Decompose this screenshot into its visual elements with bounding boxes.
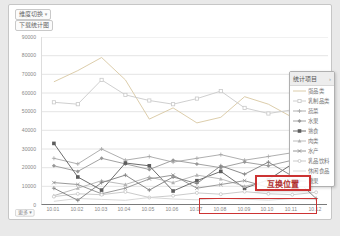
legend-marker-icon: [293, 147, 306, 155]
x-axis: 10.0110.0210.0310.0410.0510.0610.0710.08…: [41, 206, 327, 216]
x-tick-label: 10.02: [67, 207, 87, 216]
series-line-8: [54, 198, 316, 202]
dimension-switch-label: 维度切换: [19, 11, 43, 17]
legend-item-label: 熟食: [308, 127, 319, 134]
series-line-7: [54, 192, 316, 198]
x-tick-label: 10.05: [138, 207, 158, 216]
legend-item-label: 水产: [308, 147, 319, 154]
more-label: 更多: [18, 210, 28, 215]
legend-marker-icon: [293, 97, 306, 105]
y-tick-label: 10000: [13, 183, 36, 188]
legend-item-label: 水果: [308, 117, 319, 124]
legend-marker-icon: [293, 167, 306, 175]
y-axis: 9000080000700006000050000400003000020000…: [9, 37, 39, 205]
legend-item-0[interactable]: 蛋品类: [290, 86, 334, 96]
download-chart-label: 下载统计图: [19, 22, 49, 28]
legend-marker-icon: [293, 127, 306, 135]
legend-item-7[interactable]: 乳品饮料: [290, 156, 334, 166]
series-line-0: [54, 58, 316, 123]
legend-marker-icon: [293, 107, 306, 115]
legend-marker-icon: [293, 157, 306, 165]
legend-item-4[interactable]: 熟食: [290, 126, 334, 136]
legend-item-label: 休闲食品: [308, 167, 330, 174]
legend-item-5[interactable]: 肉类: [290, 136, 334, 146]
legend-item-label: 蔬菜: [308, 107, 319, 114]
legend-items: 蛋品类乳制品类蔬菜水果熟食肉类水产乳品饮料休闲食品糖果: [290, 86, 334, 186]
y-tick-label: 0: [13, 202, 36, 207]
swap-position-annotation: 互换位置: [255, 175, 311, 191]
dimension-switch-dropdown[interactable]: 维度切换 ▾: [15, 9, 51, 20]
legend-marker-icon: [293, 87, 306, 95]
y-tick-label: 60000: [13, 90, 36, 95]
y-tick-label: 30000: [13, 146, 36, 151]
y-tick-label: 50000: [13, 109, 36, 114]
x-tick-label: 10.04: [114, 207, 134, 216]
legend-item-label: 蛋品类: [308, 87, 324, 94]
legend-box: 统计项目 › 蛋品类乳制品类蔬菜水果熟食肉类水产乳品饮料休闲食品糖果: [289, 71, 335, 187]
x-tick-label: 10.06: [162, 207, 182, 216]
chevron-down-icon: ▾: [45, 11, 48, 17]
x-tick-label: 10.03: [90, 207, 110, 216]
y-tick-label: 70000: [13, 71, 36, 76]
legend-marker-icon: [293, 117, 306, 125]
legend-item-1[interactable]: 乳制品类: [290, 96, 334, 106]
download-chart-button[interactable]: 下载统计图: [15, 20, 53, 31]
x-tick-label: 10.09: [233, 207, 253, 216]
legend-item-6[interactable]: 水产: [290, 146, 334, 156]
x-tick-label: 10.12: [305, 207, 325, 216]
more-dropdown[interactable]: 更多 ▾: [15, 209, 34, 217]
legend-marker-icon: [293, 137, 306, 145]
chart-panel: 维度切换 ▾ 下载统计图 900008000070000600005000040…: [8, 4, 332, 220]
y-tick-label: 80000: [13, 53, 36, 58]
legend-header[interactable]: 统计项目 ›: [290, 72, 334, 86]
legend-item-3[interactable]: 水果: [290, 116, 334, 126]
chevron-down-icon: ▾: [29, 210, 32, 215]
swap-position-label: 互换位置: [267, 178, 299, 189]
chevron-right-icon: ›: [329, 76, 331, 82]
x-tick-label: 10.01: [43, 207, 63, 216]
legend-item-label: 乳制品类: [308, 97, 330, 104]
y-tick-label: 40000: [13, 127, 36, 132]
x-tick-label: 10.07: [186, 207, 206, 216]
legend-item-label: 乳品饮料: [308, 157, 330, 164]
legend-header-label: 统计项目: [293, 74, 317, 83]
y-tick-label: 20000: [13, 165, 36, 170]
x-tick-label: 10.11: [281, 207, 301, 216]
legend-item-label: 肉类: [308, 137, 319, 144]
x-tick-label: 10.10: [257, 207, 277, 216]
y-tick-label: 90000: [13, 34, 36, 39]
legend-item-2[interactable]: 蔬菜: [290, 106, 334, 116]
x-tick-label: 10.08: [210, 207, 230, 216]
page: { "toolbar": { "dimension_switch": "维度切换…: [0, 0, 340, 236]
